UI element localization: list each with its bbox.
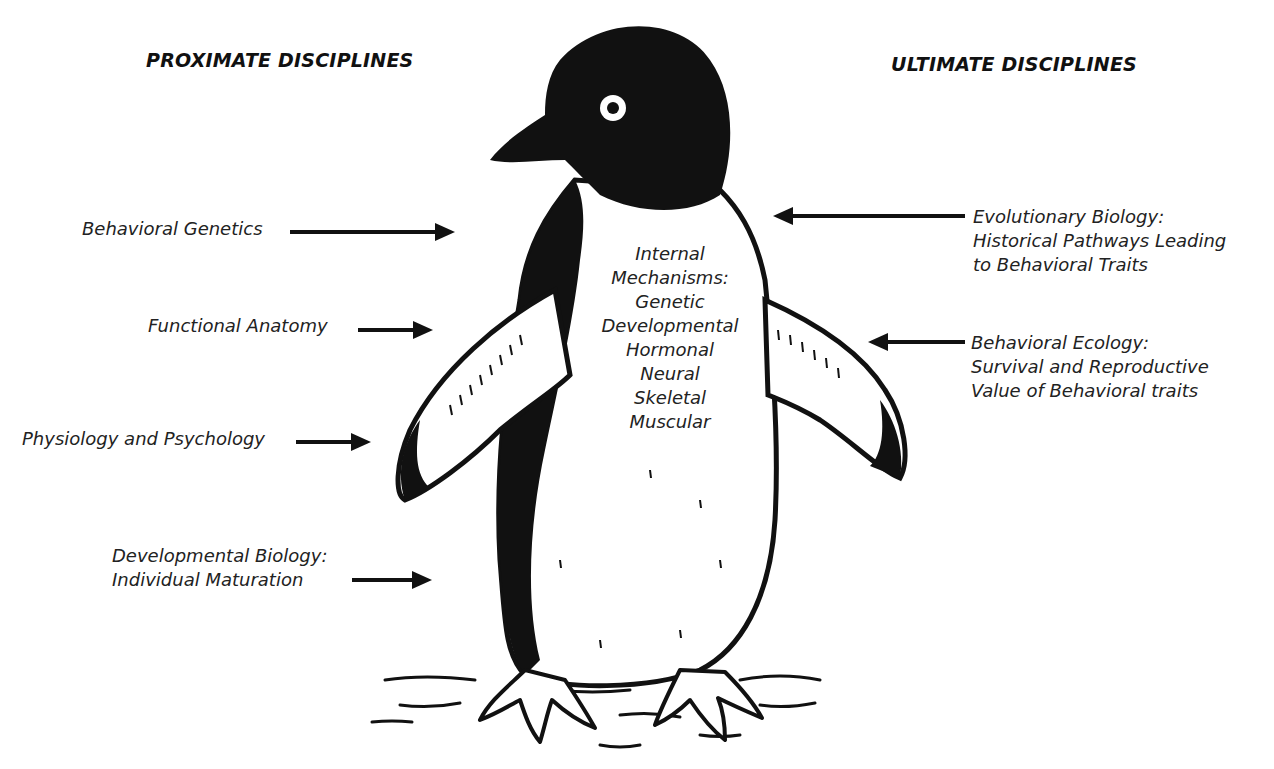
internal-mechanisms-list: Internal Mechanisms: Genetic Development…: [580, 242, 760, 434]
arrow-developmental-biology: [352, 570, 437, 590]
arrow-functional-anatomy: [358, 320, 438, 340]
arrow-evolutionary-biology: [773, 206, 968, 226]
label-behavioral-genetics: Behavioral Genetics: [82, 217, 263, 241]
label-physiology-psychology: Physiology and Psychology: [22, 427, 265, 451]
label-developmental-biology: Developmental Biology: Individual Matura…: [112, 544, 327, 592]
ultimate-header: ULTIMATE DISCIPLINES: [891, 53, 1137, 75]
label-behavioral-ecology: Behavioral Ecology: Survival and Reprodu…: [971, 331, 1209, 403]
arrow-behavioral-genetics: [290, 222, 460, 242]
label-functional-anatomy: Functional Anatomy: [148, 314, 328, 338]
arrow-behavioral-ecology: [868, 332, 968, 352]
proximate-header: PROXIMATE DISCIPLINES: [146, 49, 414, 71]
label-evolutionary-biology: Evolutionary Biology: Historical Pathway…: [973, 205, 1226, 277]
arrow-physiology-psychology: [296, 432, 376, 452]
